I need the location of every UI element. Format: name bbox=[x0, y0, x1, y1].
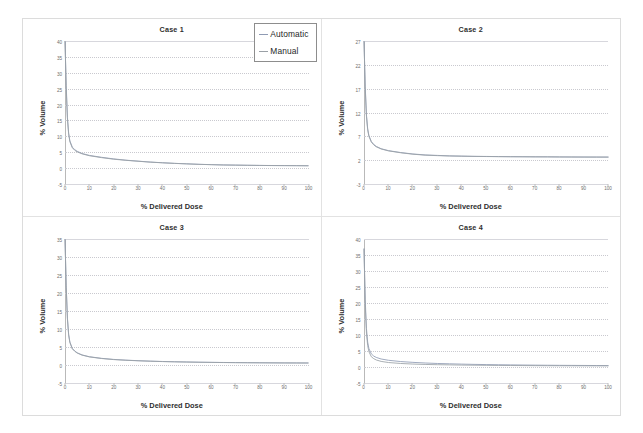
panel-case-1: Case 1 % Volume % Delivered Dose 4035302… bbox=[23, 19, 322, 217]
legend-item-automatic[interactable]: Automatic bbox=[259, 29, 308, 39]
y-tick-label: 20 bbox=[355, 302, 360, 307]
legend-item-manual[interactable]: Manual bbox=[259, 46, 308, 56]
x-tick-label: 10 bbox=[87, 385, 92, 390]
x-tick-label: 60 bbox=[209, 186, 214, 191]
series-line-manual bbox=[364, 41, 609, 157]
plot-area: 4035302520151050-50102030405060708090100 bbox=[364, 239, 609, 383]
x-tick-label: 100 bbox=[604, 385, 612, 390]
y-tick-label: 5 bbox=[59, 346, 62, 351]
x-tick-label: 0 bbox=[64, 385, 67, 390]
panel-title: Case 3 bbox=[23, 223, 321, 232]
plot-canvas: 4035302520151050-50102030405060708090100 bbox=[65, 41, 309, 184]
y-tick-label: 30 bbox=[57, 256, 62, 261]
line-swatch-icon bbox=[259, 34, 268, 35]
y-axis-label: % Volume bbox=[38, 100, 47, 135]
plot-canvas: 4035302520151050-50102030405060708090100 bbox=[364, 239, 609, 383]
y-tick-label: 20 bbox=[57, 103, 62, 108]
y-tick-label: 35 bbox=[57, 55, 62, 60]
x-tick-label: 20 bbox=[410, 385, 415, 390]
y-tick-label: 10 bbox=[57, 135, 62, 140]
x-tick-label: 30 bbox=[135, 385, 140, 390]
y-tick-label: 10 bbox=[57, 328, 62, 333]
y-tick-label: 30 bbox=[57, 71, 62, 76]
x-tick-label: 60 bbox=[508, 385, 513, 390]
x-axis-label: % Delivered Dose bbox=[23, 202, 321, 211]
y-tick-label: 15 bbox=[57, 119, 62, 124]
series-line-automatic bbox=[364, 41, 609, 157]
x-tick-label: 40 bbox=[459, 186, 464, 191]
x-tick-label: 80 bbox=[557, 385, 562, 390]
x-tick-label: 80 bbox=[257, 385, 262, 390]
x-tick-label: 70 bbox=[532, 385, 537, 390]
y-tick-label: 35 bbox=[355, 254, 360, 259]
y-tick-label: -5 bbox=[58, 382, 62, 387]
x-axis-label: % Delivered Dose bbox=[322, 401, 621, 410]
y-tick-label: -5 bbox=[356, 382, 360, 387]
plot-canvas: 2722171272-30102030405060708090100 bbox=[364, 41, 609, 184]
panel-case-3: Case 3 % Volume % Delivered Dose 3530252… bbox=[23, 217, 322, 415]
y-tick-label: 15 bbox=[355, 318, 360, 323]
series-line-manual bbox=[65, 239, 309, 363]
plot-area: 2722171272-30102030405060708090100 bbox=[364, 41, 609, 184]
plot-area: 4035302520151050-50102030405060708090100 bbox=[65, 41, 309, 184]
x-axis-ticks: 0102030405060708090100 bbox=[364, 383, 609, 397]
dvh-figure: Case 1 % Volume % Delivered Dose 4035302… bbox=[22, 18, 621, 416]
x-axis-ticks: 0102030405060708090100 bbox=[364, 184, 609, 198]
x-tick-label: 100 bbox=[604, 186, 612, 191]
y-axis-label: % Volume bbox=[336, 100, 345, 135]
x-tick-label: 30 bbox=[434, 186, 439, 191]
x-tick-label: 80 bbox=[257, 186, 262, 191]
plot-area: 35302520151050-50102030405060708090100 bbox=[65, 239, 309, 383]
x-tick-label: 100 bbox=[305, 385, 313, 390]
x-tick-label: 90 bbox=[581, 385, 586, 390]
y-tick-label: -5 bbox=[58, 183, 62, 188]
x-tick-label: 10 bbox=[87, 186, 92, 191]
y-tick-label: 20 bbox=[57, 292, 62, 297]
y-tick-label: 25 bbox=[57, 274, 62, 279]
x-tick-label: 40 bbox=[160, 385, 165, 390]
x-tick-label: 0 bbox=[362, 186, 365, 191]
x-tick-label: 100 bbox=[305, 186, 313, 191]
curve-layer bbox=[364, 41, 609, 184]
x-tick-label: 90 bbox=[282, 186, 287, 191]
y-tick-label: 17 bbox=[355, 87, 360, 92]
x-tick-label: 60 bbox=[508, 186, 513, 191]
x-axis-ticks: 0102030405060708090100 bbox=[65, 383, 309, 397]
x-tick-label: 10 bbox=[385, 385, 390, 390]
series-line-automatic bbox=[364, 249, 609, 366]
y-tick-label: 5 bbox=[358, 350, 361, 355]
x-tick-label: 80 bbox=[557, 186, 562, 191]
x-tick-label: 70 bbox=[233, 186, 238, 191]
x-tick-label: 20 bbox=[111, 186, 116, 191]
y-tick-label: 0 bbox=[59, 364, 62, 369]
x-tick-label: 40 bbox=[160, 186, 165, 191]
x-tick-label: 30 bbox=[135, 186, 140, 191]
y-tick-label: 22 bbox=[355, 63, 360, 68]
y-tick-label: 25 bbox=[355, 286, 360, 291]
curve-layer bbox=[65, 239, 309, 383]
panel-title: Case 2 bbox=[322, 25, 621, 34]
x-tick-label: 0 bbox=[64, 186, 67, 191]
x-tick-label: 50 bbox=[184, 186, 189, 191]
x-tick-label: 0 bbox=[362, 385, 365, 390]
y-tick-label: -3 bbox=[356, 183, 360, 188]
x-tick-label: 90 bbox=[581, 186, 586, 191]
panel-case-4: Case 4 % Volume % Delivered Dose 4035302… bbox=[322, 217, 621, 415]
panel-title: Case 4 bbox=[322, 223, 621, 232]
y-tick-label: 40 bbox=[57, 40, 62, 45]
x-axis-label: % Delivered Dose bbox=[322, 202, 621, 211]
y-tick-label: 30 bbox=[355, 270, 360, 275]
series-line-automatic bbox=[65, 239, 309, 363]
panel-case-2: Case 2 % Volume % Delivered Dose 2722171… bbox=[322, 19, 621, 217]
x-tick-label: 70 bbox=[233, 385, 238, 390]
y-tick-label: 2 bbox=[358, 159, 361, 164]
y-tick-label: 10 bbox=[355, 334, 360, 339]
x-tick-label: 50 bbox=[184, 385, 189, 390]
x-tick-label: 30 bbox=[434, 385, 439, 390]
curve-layer bbox=[364, 239, 609, 383]
y-tick-label: 27 bbox=[355, 40, 360, 45]
x-axis-label: % Delivered Dose bbox=[23, 401, 321, 410]
y-tick-label: 5 bbox=[59, 151, 62, 156]
y-axis-label: % Volume bbox=[336, 299, 345, 334]
legend-label: Manual bbox=[270, 46, 298, 56]
